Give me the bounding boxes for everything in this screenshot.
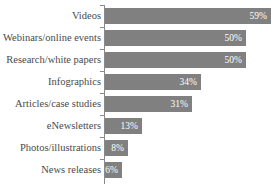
bar: 34% [105,74,201,90]
axis-tick [100,5,104,6]
axis-tick [100,71,104,72]
bar: 50% [105,30,246,46]
bar-value-label: 50% [225,52,242,68]
category-label: Infographics [0,74,101,90]
bar-row: eNewsletters13% [0,118,273,134]
bar-value-label: 6% [105,162,118,178]
bar: 8% [105,140,128,156]
bar-value-label: 50% [225,30,242,46]
bar-row: Research/white papers50% [0,52,273,68]
axis-tick [100,93,104,94]
category-label: Photos/illustrations [0,140,101,156]
bar-value-label: 31% [171,96,188,112]
bar-row: Webinars/online events50% [0,30,273,46]
axis-tick [100,159,104,160]
bar-value-label: 59% [250,8,267,24]
axis-tick [100,137,104,138]
bar: 50% [105,52,246,68]
axis-tick [100,27,104,28]
bar: 31% [105,96,192,112]
category-label: News releases [0,162,101,178]
bar-row: Photos/illustrations8% [0,140,273,156]
axis-tick [100,49,104,50]
bar-row: Articles/case studies31% [0,96,273,112]
category-label: Webinars/online events [0,30,101,46]
bar: 59% [105,8,271,24]
category-label: Articles/case studies [0,96,101,112]
category-label: eNewsletters [0,118,101,134]
bar-value-label: 8% [111,140,124,156]
bar-value-label: 34% [180,74,197,90]
category-label: Videos [0,8,101,24]
bar-value-label: 13% [121,118,138,134]
bar: 6% [105,162,122,178]
bar: 13% [105,118,142,134]
bar-row: News releases6% [0,162,273,178]
bar-row: Videos59% [0,8,273,24]
axis-tick [100,115,104,116]
plot-area: Videos59%Webinars/online events50%Resear… [0,0,273,185]
bar-row: Infographics34% [0,74,273,90]
bar-chart: Videos59%Webinars/online events50%Resear… [0,0,273,185]
category-label: Research/white papers [0,52,101,68]
